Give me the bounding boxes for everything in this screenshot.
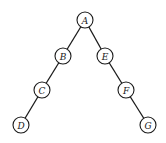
nodes-layer: A B E C F D G xyxy=(13,12,156,133)
tree-node-a: A xyxy=(77,12,93,28)
tree-node-c: C xyxy=(34,82,50,98)
tree-node-d: D xyxy=(13,117,29,133)
tree-node-g: G xyxy=(140,117,156,133)
node-label: G xyxy=(144,121,151,131)
binary-tree-diagram: A B E C F D G xyxy=(0,0,166,143)
tree-node-f: F xyxy=(118,82,134,98)
edges-layer xyxy=(21,20,148,125)
node-label: B xyxy=(59,52,67,62)
node-label: F xyxy=(122,86,130,96)
node-label: E xyxy=(101,52,109,62)
tree-node-b: B xyxy=(55,48,71,64)
node-label: A xyxy=(81,16,89,26)
tree-node-e: E xyxy=(97,48,113,64)
node-label: D xyxy=(16,121,24,131)
node-label: C xyxy=(39,86,46,96)
